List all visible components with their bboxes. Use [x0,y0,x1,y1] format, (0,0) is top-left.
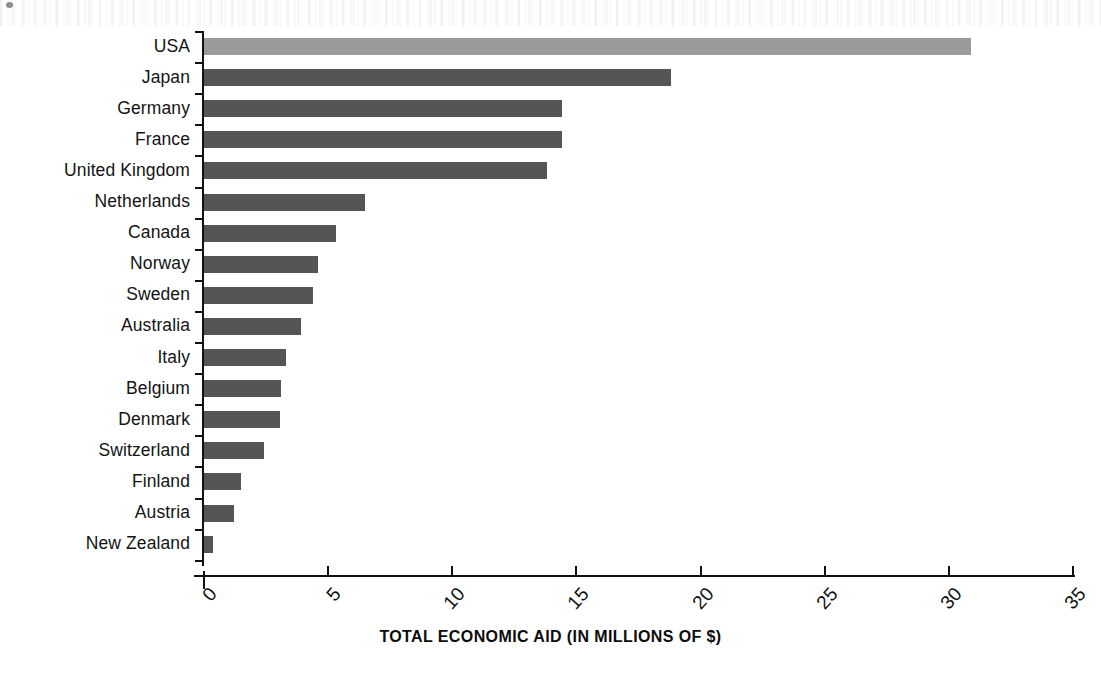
bar [204,349,286,366]
bar [204,536,213,553]
x-axis-spine [194,575,1075,577]
bar [204,380,281,397]
category-label: United Kingdom [0,162,190,179]
category-label: Sweden [0,286,190,303]
x-axis-tick [824,566,826,577]
category-label: Canada [0,224,190,241]
plot-area: USAJapanGermanyFranceUnited KingdomNethe… [0,0,1101,674]
bar [204,256,318,273]
category-label: Australia [0,317,190,334]
category-label: Norway [0,255,190,272]
x-axis-tick [327,566,329,577]
bar [204,287,313,304]
bar [204,442,264,459]
x-axis-tick [575,566,577,577]
bar [204,473,241,490]
category-label: Denmark [0,411,190,428]
bar [204,162,547,179]
bar [204,69,671,86]
category-label: Netherlands [0,193,190,210]
bar [204,131,562,148]
bar-chart-figure: USAJapanGermanyFranceUnited KingdomNethe… [0,0,1101,674]
category-label: Austria [0,504,190,521]
category-label: New Zealand [0,535,190,552]
x-axis-tick [700,566,702,577]
bar [204,505,234,522]
category-label: France [0,131,190,148]
bar [204,225,336,242]
x-axis-tick [451,566,453,577]
x-axis-tick [948,566,950,577]
category-label: Belgium [0,380,190,397]
category-label: USA [0,38,190,55]
bar [204,38,971,55]
bar [204,100,562,117]
x-axis-tick [1072,566,1074,577]
bar [204,318,301,335]
category-label: Germany [0,100,190,117]
bar [204,411,280,428]
category-label: Finland [0,473,190,490]
category-label: Japan [0,69,190,86]
bar [204,194,365,211]
category-label: Italy [0,349,190,366]
category-label: Switzerland [0,442,190,459]
x-axis-title: TOTAL ECONOMIC AID (IN MILLIONS OF $) [0,628,1101,646]
